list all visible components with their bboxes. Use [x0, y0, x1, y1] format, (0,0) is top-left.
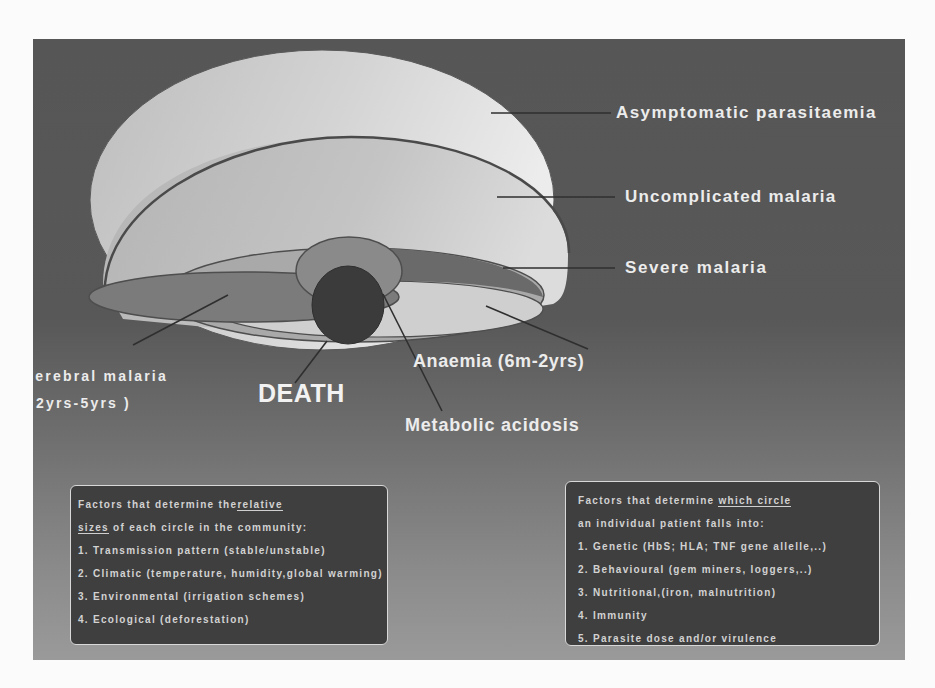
label-cerebral-malaria: Cerebral malaria ( 2yrs-5yrs ): [33, 363, 168, 417]
label-uncomplicated-malaria: Uncomplicated malaria: [625, 187, 836, 207]
list-item: 3. Nutritional,(iron, malnutrition): [578, 584, 879, 607]
label-death: DEATH: [258, 379, 345, 408]
list-item: 2. Climatic (temperature, humidity,globa…: [78, 565, 387, 588]
heading-underlined-relative: relative: [237, 499, 282, 511]
right-box-heading-line1: Factors that determine which circle: [578, 492, 879, 515]
list-item: 1. Genetic (HbS; HLA; TNF gene allelle,.…: [578, 538, 879, 561]
label-anaemia: Anaemia (6m-2yrs): [413, 351, 584, 372]
left-box-heading-line2: sizes of each circle in the community:: [78, 519, 387, 542]
heading-text: Factors that determine: [578, 495, 718, 506]
list-item: 4. Ecological (deforestation): [78, 611, 387, 634]
label-asymptomatic-parasitaemia: Asymptomatic parasitaemia: [616, 103, 877, 123]
right-box-heading-line2: an individual patient falls into:: [578, 515, 879, 538]
left-box-heading-line1: Factors that determine therelative: [78, 496, 387, 519]
list-item: 3. Environmental (irrigation schemes): [78, 588, 387, 611]
list-item: 5. Parasite dose and/or virulence: [578, 630, 879, 653]
cerebral-malaria-line1: Cerebral malaria: [33, 363, 168, 390]
heading-text: of each circle in the community:: [109, 522, 308, 533]
individual-factors-box: Factors that determine which circle an i…: [565, 481, 880, 646]
heading-underlined-which-circle: which circle: [718, 495, 791, 507]
heading-underlined-sizes: sizes: [78, 522, 109, 534]
list-item: 1. Transmission pattern (stable/unstable…: [78, 542, 387, 565]
death-circle: [312, 266, 384, 344]
community-factors-box: Factors that determine therelative sizes…: [70, 485, 388, 645]
slide: Asymptomatic parasitaemia Uncomplicated …: [33, 39, 905, 660]
heading-text: Factors that determine the: [78, 499, 237, 510]
label-severe-malaria: Severe malaria: [625, 258, 767, 278]
cerebral-malaria-line2: ( 2yrs-5yrs ): [33, 390, 168, 417]
label-metabolic-acidosis: Metabolic acidosis: [405, 415, 579, 436]
list-item: 2. Behavioural (gem miners, loggers,..): [578, 561, 879, 584]
list-item: 4. Immunity: [578, 607, 879, 630]
